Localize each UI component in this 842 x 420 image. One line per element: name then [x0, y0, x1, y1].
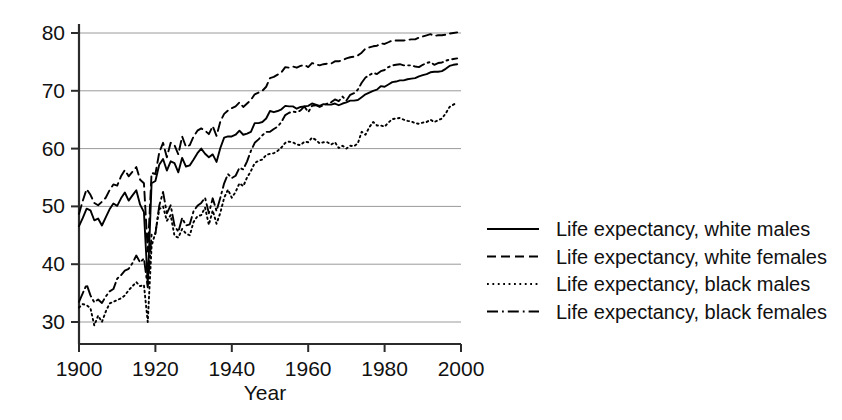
legend-label-1: Life expectancy, white females — [556, 246, 827, 268]
y-tick-label: 60 — [42, 137, 65, 160]
chart-canvas: 304050607080 190019201940196019802000 Ye… — [0, 0, 842, 420]
x-tick-label: 1920 — [132, 357, 179, 380]
legend-label-2: Life expectancy, black males — [556, 273, 810, 295]
x-tick-label: 1940 — [208, 357, 255, 380]
x-tick-label: 1980 — [361, 357, 408, 380]
x-axis-title: Year — [244, 381, 286, 404]
x-tick-label: 1960 — [285, 357, 332, 380]
legend-label-0: Life expectancy, white males — [556, 218, 810, 240]
y-tick-label: 30 — [42, 310, 65, 333]
x-tick-label: 2000 — [438, 357, 485, 380]
life-expectancy-chart: 304050607080 190019201940196019802000 Ye… — [0, 0, 842, 420]
x-tick-label: 1900 — [56, 357, 103, 380]
y-tick-label: 80 — [42, 21, 65, 44]
y-tick-label: 70 — [42, 79, 65, 102]
y-tick-label: 40 — [42, 252, 65, 275]
legend-label-3: Life expectancy, black females — [556, 301, 827, 323]
chart-background — [0, 0, 842, 420]
y-tick-label: 50 — [42, 194, 65, 217]
